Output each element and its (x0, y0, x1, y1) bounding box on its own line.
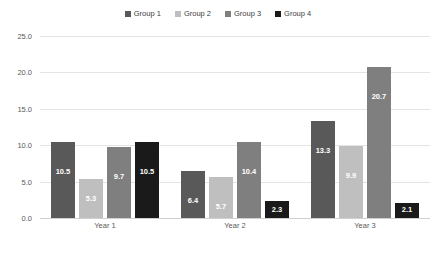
y-axis-tick-label: 15.0 (17, 104, 32, 113)
bar-group: 6.45.710.42.3 (170, 36, 300, 218)
bar-set: 6.45.710.42.3 (170, 36, 300, 218)
bar-value-label: 9.9 (339, 172, 363, 180)
bar-value-label: 13.3 (311, 147, 335, 155)
bar-groups: 10.55.39.710.56.45.710.42.313.39.920.72.… (40, 36, 430, 218)
bar-value-label: 10.4 (237, 168, 261, 176)
bar-value-label: 2.1 (395, 207, 419, 215)
bar[interactable]: 20.7 (367, 67, 391, 218)
legend-item-1[interactable]: Group 1 (125, 10, 161, 18)
legend-label: Group 4 (284, 10, 311, 18)
bar-value-label: 10.5 (135, 168, 159, 176)
x-axis-category-label: Year 2 (170, 221, 300, 230)
y-axis-tick-label: 25.0 (17, 32, 32, 41)
y-axis-tick-label: 10.0 (17, 141, 32, 150)
y-axis-tick-label: 5.0 (22, 177, 32, 186)
bar[interactable]: 5.3 (79, 179, 103, 218)
bar-value-label: 2.3 (265, 206, 289, 214)
bar-chart: Group 1Group 2Group 3Group 4 0.05.010.01… (0, 0, 436, 253)
legend-item-2[interactable]: Group 2 (175, 10, 211, 18)
legend-swatch-icon (175, 11, 181, 17)
bar-value-label: 9.7 (107, 173, 131, 181)
legend-label: Group 1 (134, 10, 161, 18)
bar-value-label: 10.5 (51, 168, 75, 176)
bar[interactable]: 5.7 (209, 177, 233, 218)
x-axis: Year 1Year 2Year 3 (40, 221, 430, 230)
bar-value-label: 6.4 (181, 197, 205, 205)
y-axis-tick-label: 0.0 (22, 214, 32, 223)
legend-item-3[interactable]: Group 3 (225, 10, 261, 18)
bar-value-label: 5.7 (209, 203, 233, 211)
bar[interactable]: 9.9 (339, 146, 363, 218)
legend-swatch-icon (275, 11, 281, 17)
legend-label: Group 3 (234, 10, 261, 18)
axis-baseline (40, 218, 430, 219)
bar[interactable]: 10.5 (51, 142, 75, 218)
bar-set: 13.39.920.72.1 (300, 36, 430, 218)
y-axis: 0.05.010.015.020.025.0 (0, 36, 36, 218)
legend-swatch-icon (125, 11, 131, 17)
bar[interactable]: 6.4 (181, 171, 205, 218)
bar[interactable]: 2.1 (395, 203, 419, 218)
chart-legend: Group 1Group 2Group 3Group 4 (0, 7, 436, 21)
x-axis-category-label: Year 1 (40, 221, 170, 230)
bar[interactable]: 13.3 (311, 121, 335, 218)
bar[interactable]: 10.5 (135, 142, 159, 218)
y-axis-tick-label: 20.0 (17, 68, 32, 77)
legend-label: Group 2 (184, 10, 211, 18)
bar-set: 10.55.39.710.5 (40, 36, 170, 218)
bar[interactable]: 10.4 (237, 142, 261, 218)
legend-item-4[interactable]: Group 4 (275, 10, 311, 18)
x-axis-category-label: Year 3 (300, 221, 430, 230)
legend-swatch-icon (225, 11, 231, 17)
bar-value-label: 5.3 (79, 195, 103, 203)
bar-value-label: 20.7 (367, 93, 391, 101)
bar[interactable]: 9.7 (107, 147, 131, 218)
bar-group: 13.39.920.72.1 (300, 36, 430, 218)
bar-group: 10.55.39.710.5 (40, 36, 170, 218)
bar[interactable]: 2.3 (265, 201, 289, 218)
